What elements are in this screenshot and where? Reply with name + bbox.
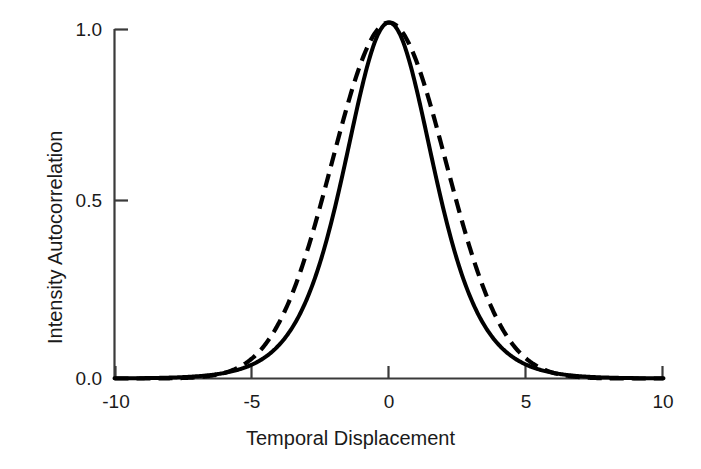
- dashed-curve: [115, 23, 664, 379]
- y-axis-ticks: [115, 30, 129, 201]
- x-tick-label-10: 10: [628, 391, 698, 413]
- x-tick-label-5: 5: [491, 391, 561, 413]
- axis-spines: [114, 29, 664, 379]
- x-tick-label-0: 0: [354, 391, 424, 413]
- y-tick-label-1-0: 1.0: [42, 19, 102, 41]
- x-tick-label-minus10: -10: [81, 391, 151, 413]
- y-axis-title: Intensity Autocorrelation: [44, 131, 67, 344]
- y-tick-label-0-0: 0.0: [42, 368, 102, 390]
- x-tick-label-minus5: -5: [217, 391, 287, 413]
- chart-figure: 1.0 0.5 0.0 -10 -5 0 5 10 Temporal Displ…: [0, 0, 701, 469]
- x-axis-title: Temporal Displacement: [0, 427, 701, 450]
- solid-curve: [115, 23, 664, 379]
